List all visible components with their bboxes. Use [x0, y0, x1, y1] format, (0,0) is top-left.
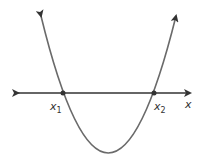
root-label-2: x2 [153, 100, 166, 115]
root-point-1 [61, 91, 66, 96]
parabola-diagram: x1 x2 x [0, 0, 202, 164]
parabola-curve [41, 16, 176, 153]
x-axis-label: x [184, 98, 192, 111]
diagram-canvas: x1 x2 x [0, 0, 202, 164]
root-point-2 [152, 91, 157, 96]
root-label-1: x1 [49, 100, 62, 115]
